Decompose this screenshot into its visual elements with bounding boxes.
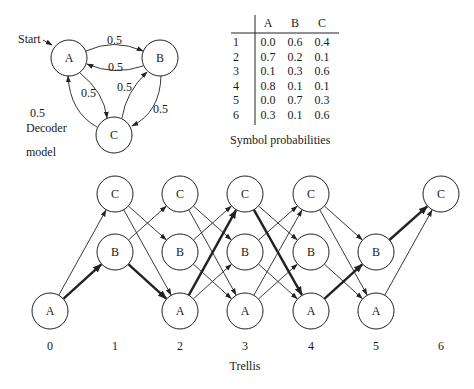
svg-text:A: A [65,51,74,65]
table-row-symbol: 5 [233,93,239,107]
svg-text:A: A [307,304,316,318]
decoder-model: Start 0.5 0.5 0.5 0.5 0.5 0.5 A B C Dec [18,32,178,159]
prob-a-to-c: 0.5 [81,86,96,100]
svg-text:A: A [176,304,185,318]
trellis-node-c-t6: C [423,176,459,212]
model-state-b: B [142,40,178,76]
trellis-node-a-t4: A [293,293,329,329]
svg-text:B: B [111,245,119,259]
time-step-label: 0 [47,339,53,353]
svg-text:B: B [176,245,184,259]
table-cell: 0.7 [288,93,303,107]
time-step-label: 3 [242,339,248,353]
prob-b-to-a: 0.5 [108,60,123,74]
trellis-node-c-t4: C [293,176,329,212]
hmm-figure: Start 0.5 0.5 0.5 0.5 0.5 0.5 A B C Dec [0,0,474,389]
start-arrow [43,40,52,45]
table-row-symbol: 6 [233,108,239,122]
edge-c-to-b [122,72,147,118]
table-cell: 0.3 [288,64,303,78]
svg-text:C: C [437,187,445,201]
decoder-caption-line1: Decoder [26,121,67,135]
table-cell: 0.1 [261,64,276,78]
prob-c-to-b: 0.5 [117,80,132,94]
trellis-node-b-t5: B [358,234,394,270]
table-row-symbol: 4 [233,79,239,93]
table-cell: 0.1 [288,108,303,122]
trellis-node-a-t2: A [162,293,198,329]
figure-canvas: Start 0.5 0.5 0.5 0.5 0.5 0.5 A B C Dec [0,0,474,389]
trellis-edge-b-to-a-best-path [128,264,166,299]
table-cell: 0.4 [315,35,330,49]
table-cell: 0.1 [315,50,330,64]
table-col-header: A [264,16,273,30]
table-row-symbol: 2 [233,50,239,64]
table-cell: 0.2 [288,50,303,64]
svg-text:A: A [372,304,381,318]
table-cell: 0.0 [261,93,276,107]
svg-text:A: A [46,304,55,318]
svg-text:B: B [307,245,315,259]
model-state-a: A [51,40,87,76]
table-cell: 0.0 [261,35,276,49]
table-cell: 0.8 [261,79,276,93]
trellis-nodes: ACBCBACBACBABAC [32,176,459,329]
table-cell: 0.6 [288,35,303,49]
table-col-header: B [291,16,299,30]
time-step-label: 2 [177,339,183,353]
time-step-label: 6 [438,339,444,353]
table-cell: 0.3 [315,93,330,107]
table-col-header: C [318,16,326,30]
table-cell: 0.7 [261,50,276,64]
svg-text:C: C [241,187,249,201]
model-state-c: C [96,117,132,153]
table-caption: Symbol probabilities [230,133,331,147]
svg-text:B: B [156,51,164,65]
trellis-node-a-t5: A [358,293,394,329]
svg-text:C: C [110,128,118,142]
svg-text:C: C [176,187,184,201]
edge-c-to-a [68,76,97,127]
trellis-caption: Trellis [230,359,261,373]
trellis-node-b-t2: B [162,234,198,270]
time-step-label: 4 [308,339,314,353]
time-step-label: 1 [112,339,118,353]
table-cell: 0.3 [261,108,276,122]
symbol-probability-table: ABC10.00.60.420.70.20.130.10.30.640.80.1… [230,15,339,147]
table-cell: 0.1 [315,79,330,93]
trellis-node-c-t2: C [162,176,198,212]
prob-a-to-b: 0.5 [107,33,122,47]
trellis-node-a-t3: A [227,293,263,329]
decoder-caption-line2: model [26,145,57,159]
trellis-node-c-t3: C [227,176,263,212]
trellis-time-axis: 0123456 [47,339,444,353]
table-row-symbol: 1 [233,35,239,49]
trellis-edge-c-to-b [324,206,362,240]
trellis-node-b-t4: B [293,234,329,270]
svg-text:B: B [241,245,249,259]
svg-text:A: A [241,304,250,318]
trellis-node-b-t3: B [227,234,263,270]
table-cell: 0.6 [315,64,330,78]
svg-text:C: C [111,187,119,201]
prob-b-to-c: 0.5 [153,102,168,116]
time-step-label: 5 [373,339,379,353]
trellis-node-b-t1: B [97,234,133,270]
start-label: Start [18,32,41,46]
trellis: ACBCBACBACBABAC 0123456 Trellis [32,176,459,373]
table-cell: 0.6 [315,108,330,122]
table-row-symbol: 3 [233,64,239,78]
trellis-edge-a-to-b-best-path [63,264,101,299]
table-cell: 0.1 [288,79,303,93]
svg-text:C: C [307,187,315,201]
svg-text:B: B [372,245,380,259]
trellis-node-c-t1: C [97,176,133,212]
trellis-node-a-t0: A [32,293,68,329]
prob-c-to-a: 0.5 [30,106,45,120]
trellis-edge-b-to-c-best-path [389,206,427,240]
